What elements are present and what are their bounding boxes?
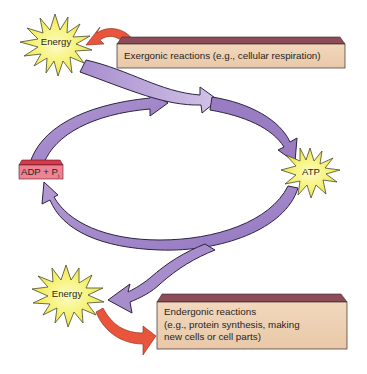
energy-top-label: Energy [34, 36, 78, 47]
red-arrow-energy-to-endergonic [96, 308, 156, 355]
atp-label: ATP [294, 166, 328, 177]
endergonic-label: Endergonic reactions (e.g., protein synt… [164, 306, 300, 344]
arrow-atp-to-adp [42, 182, 298, 250]
adp-subscript: i [58, 173, 59, 179]
adp-text: ADP + P [21, 166, 58, 177]
adp-label: ADP + Pi [21, 166, 59, 182]
endergonic-line-3: new cells or cell parts) [164, 331, 300, 344]
atp-cycle-diagram: Energy Exergonic reactions (e.g., cellul… [0, 0, 367, 374]
endergonic-line-2: (e.g., protein synthesis, making [164, 319, 300, 332]
exergonic-label: Exergonic reactions (e.g., cellular resp… [124, 50, 321, 62]
arrow-adp-to-atp [30, 92, 168, 163]
endergonic-line-1: Endergonic reactions [164, 306, 300, 319]
energy-bottom-label: Energy [45, 288, 89, 299]
